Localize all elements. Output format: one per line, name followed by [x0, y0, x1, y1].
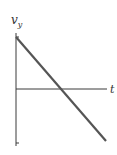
x-axis-label: t [110, 83, 115, 96]
y-axis-label: vy [11, 13, 23, 29]
velocity-time-graph: vy t [0, 0, 117, 155]
y-axis-label-subscript: y [17, 20, 23, 29]
